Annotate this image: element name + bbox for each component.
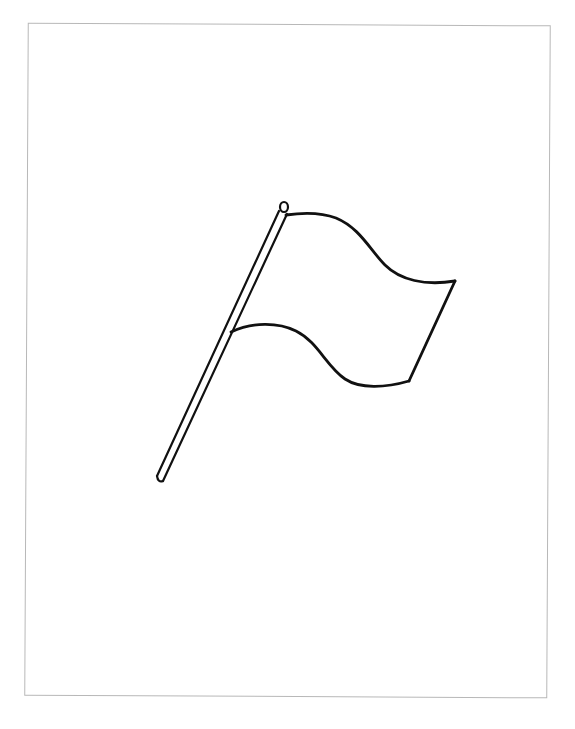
flag-icon	[157, 202, 455, 481]
flag-drawing	[0, 0, 575, 729]
flagpole-finial	[280, 202, 288, 212]
flag-cloth	[231, 213, 455, 386]
flagpole	[157, 211, 287, 481]
